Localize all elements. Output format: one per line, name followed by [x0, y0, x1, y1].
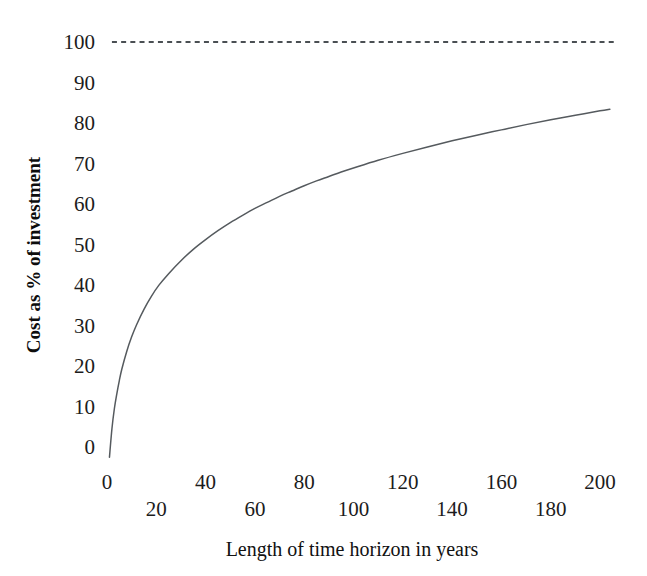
y-tick-label: 60 [74, 192, 95, 216]
x-tick-label: 40 [195, 470, 216, 494]
x-tick-label: 180 [535, 497, 567, 521]
y-tick-label: 40 [74, 273, 95, 297]
y-tick-label: 30 [74, 314, 95, 338]
x-tick-label: 160 [486, 470, 518, 494]
x-tick-label: 100 [338, 497, 370, 521]
x-axis-tick-labels: 020406080100120140160180200 [102, 470, 616, 521]
chart-figure: 0102030405060708090100 02040608010012014… [0, 0, 647, 576]
x-tick-label: 140 [436, 497, 468, 521]
chart-canvas: 0102030405060708090100 02040608010012014… [0, 0, 647, 576]
x-tick-label: 200 [584, 470, 616, 494]
x-tick-label: 0 [102, 470, 113, 494]
y-tick-label: 20 [74, 354, 95, 378]
x-tick-label: 120 [387, 470, 419, 494]
x-tick-label: 80 [294, 470, 315, 494]
x-tick-label: 20 [146, 497, 167, 521]
y-tick-label: 0 [85, 435, 96, 459]
x-axis-title: Length of time horizon in years [226, 538, 479, 561]
y-tick-label: 70 [74, 152, 95, 176]
cost-curve-line [109, 109, 609, 457]
y-tick-label: 90 [74, 71, 95, 95]
y-axis-tick-labels: 0102030405060708090100 [64, 30, 96, 459]
x-tick-label: 60 [244, 497, 265, 521]
y-tick-label: 10 [74, 395, 95, 419]
y-tick-label: 80 [74, 111, 95, 135]
chart-series-group [109, 42, 617, 457]
y-tick-label: 100 [64, 30, 96, 54]
y-tick-label: 50 [74, 233, 95, 257]
y-axis-title: Cost as % of investment [23, 156, 44, 353]
